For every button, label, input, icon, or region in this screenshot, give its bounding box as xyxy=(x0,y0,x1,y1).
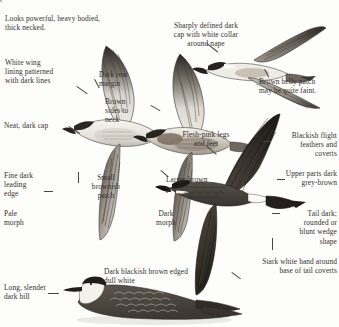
caption-box xyxy=(0,0,2,2)
annotation-dark-morph: Dark morph xyxy=(144,209,188,227)
annotation-dark-rear-margin: Dark rear margin xyxy=(99,70,151,88)
annotation-long-slender-dark-bill: Long, slender dark bill xyxy=(4,283,50,301)
annotation-stark-white-band: Stark white band around base of tail cov… xyxy=(225,257,337,275)
annotation-pale-morph: Pale morph xyxy=(4,209,46,227)
annotation-neat-dark-cap: Neat, dark cap xyxy=(4,121,68,130)
annotation-brown-belly-patch: Brown belly patch may be quite faint. xyxy=(259,77,339,95)
annotation-small-brownish-patch: Small brownish patch xyxy=(82,173,130,201)
annotation-brown-sides-to-neck: Brown sides to neck xyxy=(105,97,151,125)
annotation-blackish-flight-feathers: Blackish flight feathers and coverts xyxy=(261,131,337,159)
annotation-powerful-build: Looks powerful, heavy bodied, thick neck… xyxy=(5,14,130,32)
annotation-flesh-pink-legs: Flesh-pink legs and feet xyxy=(172,130,240,148)
annotation-upper-parts-dark: Upper parts dark grey-brown xyxy=(261,169,337,187)
annotation-white-wing-lining: White wing lining patterned with dark li… xyxy=(5,58,77,86)
annotation-larger-brown-patch: Larger brown patch xyxy=(166,175,230,193)
annotation-sharply-defined-dark-cap: Sharply defined dark cap with white coll… xyxy=(160,21,252,49)
illustration-plate: Looks powerful, heavy bodied, thick neck… xyxy=(0,0,339,327)
annotation-tail-dark-wedge: Tail dark; rounded or blunt wedge shape xyxy=(270,209,337,246)
annotation-fine-dark-leading-edge: Fine dark leading edge xyxy=(4,171,46,199)
annotation-dark-blackish-brown-edged: Dark blackish brown edged dull white xyxy=(104,267,230,285)
vbar-small-brownish-patch xyxy=(78,172,79,183)
